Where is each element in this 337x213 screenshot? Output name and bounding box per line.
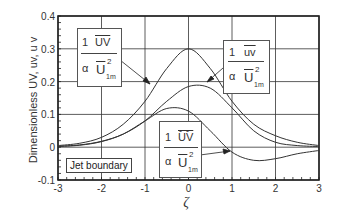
x-tick-label: 0 (186, 183, 192, 194)
denominator: U (244, 71, 253, 84)
wave-marks: -- (179, 126, 193, 136)
subscript: 1m (106, 73, 116, 80)
subscript: 1m (188, 166, 198, 173)
y-axis-label: Dimensionless UV, uv, u v (27, 36, 39, 163)
x-tick-label: 2 (273, 183, 279, 194)
y-tick-label: 0.3 (41, 44, 55, 55)
annotation-box-uv-wave: 1 UV -- α U 2 1m (159, 121, 202, 178)
chart: -3-2-10123-0.100.10.20.30.4 ζ Dimensionl… (0, 0, 337, 213)
x-axis-label: ζ (183, 195, 190, 210)
annotation-box-uv-turb: 1 uv α U 2 1m (223, 40, 270, 94)
fraction-one: 1 (82, 37, 88, 48)
fraction-one: 1 (229, 47, 235, 58)
x-tick-label: -1 (141, 183, 150, 194)
superscript: 2 (255, 66, 259, 74)
alpha-symbol: α (82, 63, 88, 74)
y-tick-label: 0.2 (41, 77, 55, 88)
denominator: U (96, 63, 105, 76)
subscript: 1m (254, 81, 264, 88)
denominator: U (178, 156, 187, 169)
alpha-symbol: α (229, 71, 235, 82)
fraction-bar (164, 147, 198, 148)
numerator: UV (95, 37, 110, 48)
y-tick-label: 0 (49, 142, 55, 153)
arrowhead-icon (143, 77, 150, 84)
y-tick-label: -0.1 (38, 175, 56, 186)
x-tick-label: 3 (316, 183, 322, 194)
annotation-box-uv-mean: 1 UV α U 2 1m (77, 28, 122, 87)
superscript: 2 (107, 58, 111, 66)
x-tick-label: 1 (229, 183, 235, 194)
x-tick-label: -2 (97, 183, 106, 194)
fraction-one: 1 (165, 132, 171, 143)
superscript: 2 (189, 151, 193, 159)
numerator: uv (244, 47, 256, 58)
alpha-symbol: α (165, 156, 171, 167)
jet-boundary-label: Jet boundary (66, 158, 132, 173)
y-tick-label: 0.4 (41, 11, 55, 22)
fraction-bar (228, 61, 264, 62)
y-tick-label: 0.1 (41, 109, 55, 120)
fraction-bar (81, 53, 117, 54)
